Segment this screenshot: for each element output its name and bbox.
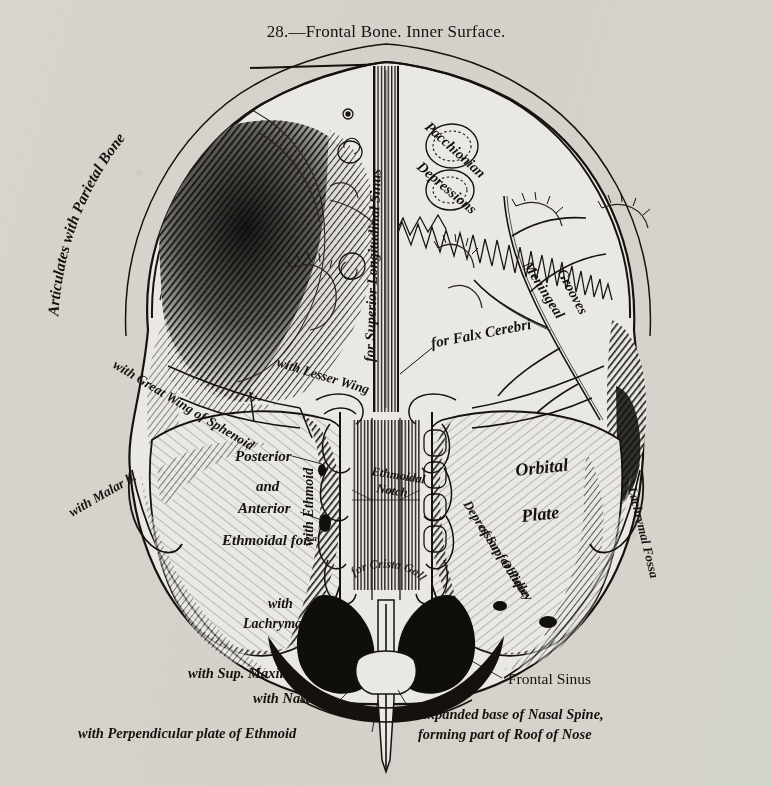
label-sup-maxill: with Sup. Maxill. xyxy=(188,665,291,681)
label-with-lachrymal-2: Lachrymal xyxy=(242,616,306,631)
label-and: and xyxy=(256,478,280,494)
label-with-lachrymal-1: with xyxy=(268,596,293,611)
label-nasal-spine-2: forming part of Roof of Nose xyxy=(418,726,592,742)
label-posterior: Posterior xyxy=(235,448,292,464)
label-nasal-spine-1: Expanded base of Nasal Spine, xyxy=(417,706,604,722)
label-perpendicular-plate: with Perpendicular plate of Ethmoid xyxy=(78,725,297,741)
anatomical-plate: Articulates with Parietal Bone for Super… xyxy=(0,0,772,786)
trochlear-fovea-pit-2 xyxy=(539,616,557,628)
trochlear-fovea-pit xyxy=(493,601,507,611)
label-frontal-sinus: Frontal Sinus xyxy=(508,670,591,687)
label-with-nasal: with Nasal xyxy=(253,690,317,706)
label-malar: with Malar b. xyxy=(66,469,139,520)
label-plate: Plate xyxy=(519,502,560,526)
label-with-ethmoid: with Ethmoid xyxy=(301,467,316,546)
label-anterior: Anterior xyxy=(237,500,291,516)
label-articulates-parietal: Articulates with Parietal Bone xyxy=(44,129,128,317)
frontal-bone-engraving: Articulates with Parietal Bone for Super… xyxy=(0,0,772,786)
